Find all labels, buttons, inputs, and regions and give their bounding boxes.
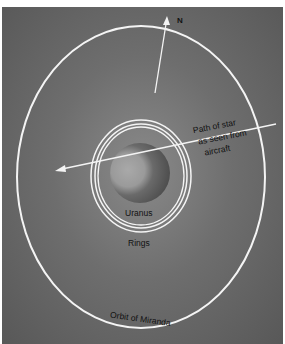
uranus-occultation-diagram: N Path of star as seen from aircraft Ura…: [0, 0, 285, 344]
north-label: N: [177, 16, 183, 25]
rings-label: Rings: [128, 238, 150, 248]
star-path-label-line3: aircraft: [204, 143, 232, 158]
uranus-label: Uranus: [125, 208, 152, 218]
